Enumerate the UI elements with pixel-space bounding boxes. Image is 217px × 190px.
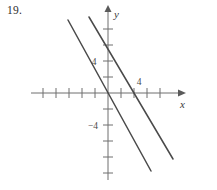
y-axis-label: y <box>113 8 119 20</box>
x-axis-label: x <box>179 98 185 110</box>
coordinate-plane-graph: y x 4 −4 4 <box>0 0 217 190</box>
y-axis-arrow-icon <box>105 5 112 12</box>
plotted-line-1 <box>68 20 151 171</box>
y-tick-label-negative-4: −4 <box>88 121 98 131</box>
y-tick-label-4: 4 <box>92 57 97 67</box>
x-tick-label-4: 4 <box>137 77 142 87</box>
figure-root: 19. <box>0 0 217 190</box>
x-axis-arrow-icon <box>178 90 186 97</box>
